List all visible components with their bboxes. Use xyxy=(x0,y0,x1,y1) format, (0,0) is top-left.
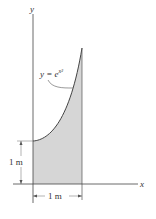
horizontal-dim-arrow-right xyxy=(78,195,82,198)
vertical-dim-arrow-top xyxy=(20,141,23,145)
vertical-dim-arrow-bottom xyxy=(20,180,23,184)
y-axis-label: y xyxy=(29,4,34,14)
horizontal-dim-label: 1 m xyxy=(48,191,62,201)
diagram-canvas: y x y = ex² 1 m 1 m xyxy=(0,0,156,219)
vertical-dim-label: 1 m xyxy=(9,157,23,167)
x-axis-label: x xyxy=(139,179,144,189)
equation-label: y = ex² xyxy=(39,68,63,79)
horizontal-dim-arrow-left xyxy=(33,195,37,198)
equation-leader xyxy=(48,80,73,88)
